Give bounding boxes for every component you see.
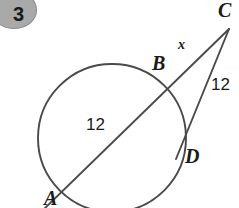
point-label-D: D [185,146,199,166]
point-label-A: A [44,188,57,208]
geometry-figure-canvas: C B D A x 12 12 3 [0,0,239,208]
chord-length-label: 12 [86,116,105,133]
tangent-length-label: 12 [211,76,230,93]
segment-label-x: x [178,38,185,52]
question-number-text: 3 [0,0,37,29]
point-label-C: C [218,0,231,20]
geometry-diagram-svg [0,0,239,208]
secant-line-CA [42,29,229,208]
circle-shape [38,64,186,208]
question-number-badge: 3 [0,0,37,29]
point-label-B: B [152,53,165,73]
